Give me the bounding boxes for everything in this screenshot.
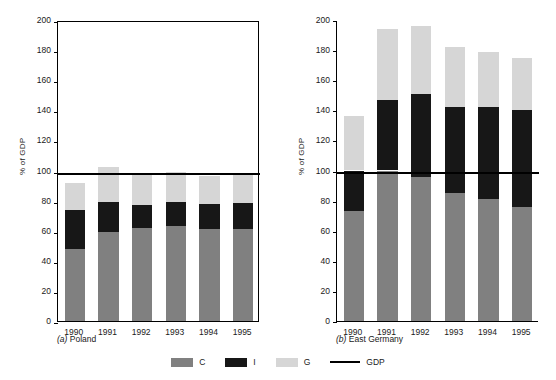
- bar-segment-c: [132, 228, 152, 321]
- legend-color-swatch: [276, 358, 298, 367]
- bar-segment-c: [445, 193, 465, 321]
- legend-label: I: [253, 357, 255, 367]
- bar-segment-c: [199, 229, 219, 321]
- x-axis-tick-label: 1991: [370, 327, 404, 337]
- bar-segment-i: [233, 203, 253, 229]
- bar-segment-g: [132, 174, 152, 206]
- bar-segment-g: [233, 173, 253, 203]
- bar-segment-g: [65, 183, 85, 210]
- x-axis-tick-label: 1994: [192, 327, 226, 337]
- y-axis-tick-label: 100: [25, 166, 51, 176]
- stacked-bar: [377, 20, 397, 321]
- y-axis-tick-label: 80: [304, 196, 330, 206]
- bar-segment-i: [478, 107, 498, 200]
- y-axis-tick: [333, 111, 337, 112]
- bar-segment-g: [411, 26, 431, 94]
- stacked-bar: [512, 20, 532, 321]
- y-axis-tick-label: 160: [304, 75, 330, 85]
- y-axis-tick: [333, 202, 337, 203]
- y-axis-tick-label: 20: [25, 286, 51, 296]
- y-axis-tick: [333, 292, 337, 293]
- bar-segment-c: [478, 199, 498, 321]
- legend-color-swatch: [171, 358, 193, 367]
- y-axis-tick-label: 100: [304, 166, 330, 176]
- stacked-bar: [132, 20, 152, 321]
- y-axis-tick-label: 60: [25, 226, 51, 236]
- y-axis-tick-label: 140: [25, 105, 51, 115]
- y-axis-tick: [54, 203, 58, 204]
- bar-segment-i: [344, 171, 364, 212]
- x-axis-tick-label: 1993: [158, 327, 192, 337]
- bar-segment-i: [411, 94, 431, 177]
- y-axis-tick: [54, 112, 58, 113]
- stacked-bar: [478, 20, 498, 321]
- gdp-reference-line: [337, 172, 539, 174]
- y-axis-tick-label: 140: [304, 105, 330, 115]
- y-axis-tick: [54, 233, 58, 234]
- x-axis-tick-label: 1992: [403, 327, 437, 337]
- y-axis-tick: [333, 262, 337, 263]
- bar-segment-c: [411, 177, 431, 321]
- bar-segment-c: [65, 249, 85, 321]
- bar-segment-g: [445, 47, 465, 106]
- bar-segment-c: [233, 229, 253, 321]
- legend-label: G: [304, 357, 311, 367]
- bar-segment-c: [344, 211, 364, 321]
- y-axis-tick-label: 200: [304, 15, 330, 25]
- bar-segment-g: [344, 116, 364, 170]
- stacked-bar: [445, 20, 465, 321]
- plot-area-poland: [57, 21, 259, 322]
- bar-segment-c: [98, 232, 118, 321]
- x-axis-tick-label: 1993: [437, 327, 471, 337]
- stacked-bar: [344, 20, 364, 321]
- legend-line-swatch: [330, 361, 360, 363]
- x-axis-tick-label: 1995: [225, 327, 259, 337]
- y-axis-tick: [54, 52, 58, 53]
- x-axis-tick-label: 1995: [504, 327, 538, 337]
- bar-segment-c: [377, 171, 397, 322]
- plot-area-east-germany: [336, 21, 538, 322]
- bar-segment-i: [445, 107, 465, 194]
- legend-item-c: C: [171, 357, 205, 367]
- bar-segment-i: [98, 202, 118, 232]
- bar-segment-i: [166, 202, 186, 226]
- legend-item-g: G: [276, 357, 311, 367]
- x-axis-tick-label: 1992: [124, 327, 158, 337]
- stacked-bar: [98, 20, 118, 321]
- y-axis-tick: [333, 232, 337, 233]
- stacked-bar: [199, 20, 219, 321]
- y-axis-tick-label: 120: [304, 135, 330, 145]
- chart-legend: CIGGDP: [0, 352, 556, 372]
- bar-segment-i: [377, 100, 397, 171]
- stacked-bar: [166, 20, 186, 321]
- bar-segment-c: [166, 226, 186, 321]
- figure-stacked-bar-gdp-composition: % of GDP (a) Poland 02040608010012014016…: [0, 0, 556, 380]
- panel-east-germany: % of GDP (b) East Germany 02040608010012…: [278, 0, 556, 348]
- legend-label: C: [199, 357, 205, 367]
- gdp-reference-line: [58, 173, 260, 175]
- bar-segment-i: [132, 205, 152, 228]
- y-axis-tick: [54, 293, 58, 294]
- y-axis-tick-label: 120: [25, 135, 51, 145]
- y-axis-tick: [333, 141, 337, 142]
- bar-segment-g: [199, 176, 219, 204]
- bar-segment-g: [166, 172, 186, 202]
- y-axis-tick-label: 40: [25, 256, 51, 266]
- y-axis-tick-label: 200: [25, 15, 51, 25]
- y-axis-tick-label: 60: [304, 226, 330, 236]
- x-axis-tick-label: 1994: [471, 327, 505, 337]
- bar-segment-g: [478, 52, 498, 107]
- y-axis-tick-label: 80: [25, 196, 51, 206]
- y-axis-tick: [54, 82, 58, 83]
- y-axis-tick: [54, 323, 58, 324]
- y-axis-tick: [333, 51, 337, 52]
- x-axis-tick-label: 1990: [57, 327, 91, 337]
- bar-segment-g: [512, 58, 532, 111]
- legend-item-gdp: GDP: [330, 357, 384, 367]
- y-axis-tick-label: 160: [25, 75, 51, 85]
- legend-label: GDP: [366, 357, 384, 367]
- bar-segment-g: [377, 29, 397, 100]
- stacked-bar: [233, 20, 253, 321]
- bar-segment-i: [512, 110, 532, 206]
- y-axis-tick: [333, 81, 337, 82]
